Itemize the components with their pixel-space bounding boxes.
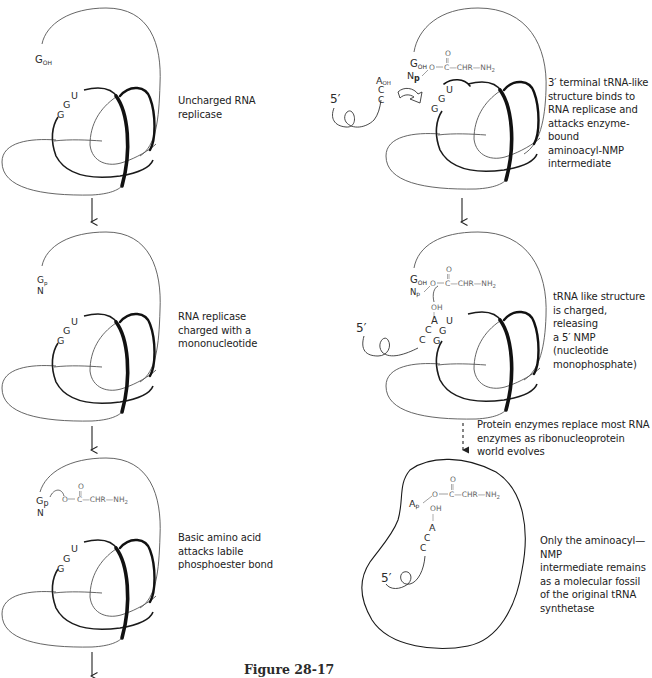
base-c2: C bbox=[420, 543, 426, 553]
caption-line: RNA replicase bbox=[178, 310, 257, 324]
oh-label: OH bbox=[431, 303, 443, 312]
base-g1: G bbox=[57, 335, 64, 346]
bean-outline bbox=[362, 459, 525, 648]
base-u: U bbox=[446, 315, 453, 326]
caption-trna-binds: 3′ terminal tRNA-like structure binds to… bbox=[548, 76, 652, 171]
ap-label: Ap bbox=[409, 498, 420, 510]
chem-o: O bbox=[432, 490, 438, 499]
caption-line: is charged, releasing bbox=[553, 304, 652, 331]
caption-molecular-fossil: Only the aminoacyl—NMP intermediate rema… bbox=[540, 534, 652, 615]
base-g2: G bbox=[63, 99, 70, 110]
base-u: U bbox=[71, 90, 78, 101]
caption-amino-acid-attack: Basic amino acid attacks labile phosphoe… bbox=[178, 531, 273, 572]
base-a: A bbox=[429, 522, 436, 533]
base-u: U bbox=[71, 543, 78, 554]
base-c1: C bbox=[378, 85, 384, 95]
caption-line: Uncharged RNA bbox=[178, 94, 256, 108]
caption-protein-enzymes: Protein enzymes replace most RNA enzymes… bbox=[477, 418, 650, 459]
base-u: U bbox=[446, 84, 453, 95]
five-prime-label: 5′ bbox=[330, 92, 341, 106]
caption-line: attacks labile bbox=[178, 545, 273, 559]
caption-line: aminoacyl-NMP bbox=[548, 144, 652, 158]
caption-line: 3′ terminal tRNA-like bbox=[548, 76, 652, 90]
carbonyl-o: O bbox=[445, 49, 451, 58]
chem-o: O bbox=[429, 63, 435, 72]
base-g1: G bbox=[431, 103, 438, 114]
panel-charged-mononucleotide: Gp N G G U bbox=[2, 232, 160, 421]
right-1-bases: G G U bbox=[431, 84, 453, 114]
caption-line: monophosphate) bbox=[553, 358, 652, 372]
base-g1: G bbox=[57, 563, 64, 574]
caption-uncharged-replicase: Uncharged RNA replicase bbox=[178, 94, 256, 121]
caption-line: synthetase bbox=[540, 602, 652, 616]
chem-chain: C—CHR—NH2 bbox=[449, 490, 500, 500]
nucleotide-n: N bbox=[37, 508, 44, 518]
chem-o: O bbox=[62, 495, 68, 504]
base-c1: C bbox=[419, 334, 426, 345]
caption-line: Only the aminoacyl—NMP bbox=[540, 534, 652, 561]
base-g2: G bbox=[438, 93, 445, 104]
panel-uncharged-replicase: GOH G G U bbox=[2, 8, 160, 195]
base-u: U bbox=[71, 316, 78, 327]
base-g1: G bbox=[57, 109, 64, 120]
caption-line: world evolves bbox=[477, 445, 650, 459]
caption-line: mononucleotide bbox=[178, 337, 257, 351]
replicase-knot bbox=[2, 88, 156, 195]
caption-line: RNA replicase and bbox=[548, 103, 652, 117]
base-g2: G bbox=[63, 325, 70, 336]
caption-line: Protein enzymes replace most RNA bbox=[477, 418, 650, 432]
chem-chain: C—CHR—NH2 bbox=[445, 279, 496, 289]
rna-strand bbox=[42, 8, 160, 156]
panel-amino-acid-attack: Gp N O O C—CHR—NH2 G G U bbox=[2, 458, 160, 647]
oh-label: OH bbox=[430, 504, 442, 513]
chem-o: O bbox=[430, 279, 436, 288]
caption-line: tRNA like structure bbox=[553, 290, 652, 304]
trna-fragment-1: 5′ AOH C C bbox=[330, 75, 422, 127]
caption-trna-charged: tRNA like structure is charged, releasin… bbox=[553, 290, 652, 371]
caption-line: attacks enzyme-bound bbox=[548, 117, 652, 144]
g-oh-label: GOH bbox=[35, 54, 52, 66]
caption-line: a 5′ NMP (nucleotide bbox=[553, 331, 652, 358]
figure-label: Figure 28-17 bbox=[244, 662, 334, 677]
panel-trna-charged: GOH Np O O C—CHR—NH2 OH bbox=[386, 232, 546, 419]
carbonyl-o: O bbox=[450, 475, 456, 484]
np-label: Np bbox=[410, 287, 420, 298]
base-g1: G bbox=[433, 335, 440, 346]
attack-arrow bbox=[433, 286, 438, 302]
caption-line: structure binds to bbox=[548, 90, 652, 104]
caption-line: Basic amino acid bbox=[178, 531, 273, 545]
base-g2: G bbox=[63, 553, 70, 564]
caption-line: of the original tRNA bbox=[540, 588, 652, 602]
panel-molecular-fossil: Ap O O C—CHR—NH2 OH A C C 5′ bbox=[362, 459, 525, 648]
g-p-label: Gp bbox=[36, 495, 48, 508]
g-oh-label: GOH bbox=[410, 274, 427, 286]
chem-chain: C—CHR—NH2 bbox=[444, 63, 495, 73]
caption-line: as a molecular fossil bbox=[540, 575, 652, 589]
caption-line: intermediate remains bbox=[540, 561, 652, 575]
caption-line: phosphoester bond bbox=[178, 558, 273, 572]
nucleotide-n: N bbox=[37, 286, 44, 296]
carbonyl-o: O bbox=[78, 482, 84, 491]
base-c2: C bbox=[378, 95, 384, 105]
caption-charged-mononucleotide: RNA replicase charged with a mononucleot… bbox=[178, 310, 257, 351]
chem-chain: C—CHR—NH2 bbox=[77, 495, 128, 505]
caption-line: replicase bbox=[178, 108, 256, 122]
carbonyl-o: O bbox=[446, 265, 452, 274]
base-g2: G bbox=[439, 325, 446, 336]
five-prime-label: 5′ bbox=[381, 571, 392, 585]
base-c1: C bbox=[424, 533, 430, 543]
base-a: A bbox=[431, 315, 438, 326]
binding-arrow-icon bbox=[398, 88, 422, 103]
g-oh-label: GOH bbox=[410, 58, 427, 70]
caption-line: charged with a bbox=[178, 324, 257, 338]
five-prime-label: 5′ bbox=[356, 321, 367, 335]
caption-line: enzymes as ribonucleoprotein bbox=[477, 432, 650, 446]
caption-line: intermediate bbox=[548, 157, 652, 171]
np-label: Np bbox=[407, 70, 420, 83]
